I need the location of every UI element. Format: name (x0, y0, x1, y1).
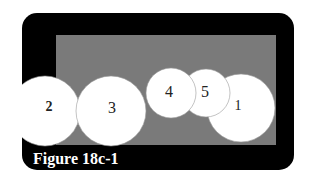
circle-2-label: 2 (46, 99, 53, 114)
circle-5-label: 5 (201, 83, 209, 100)
circle-3-label: 3 (108, 99, 116, 116)
figure-caption: Figure 18c-1 (33, 150, 118, 168)
figure-canvas: 2 3 4 5 1 Figure 18c-1 (0, 0, 309, 180)
circle-1-label: 1 (235, 98, 242, 113)
circle-4-label: 4 (165, 83, 173, 100)
